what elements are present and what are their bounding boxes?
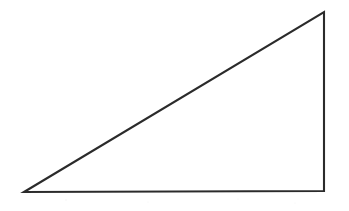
scan-speck — [237, 198, 238, 199]
scan-speck — [65, 199, 66, 200]
scan-speck — [147, 201, 148, 202]
triangle-diagram — [0, 0, 349, 211]
scan-speck — [295, 203, 296, 204]
figure-canvas — [0, 0, 349, 211]
